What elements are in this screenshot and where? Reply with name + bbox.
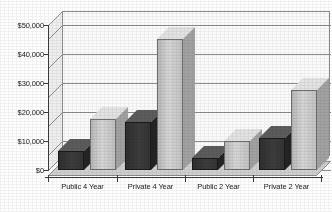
bar-front-face bbox=[259, 138, 285, 170]
bar-private-4-year-series-2 bbox=[157, 39, 183, 170]
x-tick-label-public-2-year: Public 2 Year bbox=[184, 182, 253, 191]
plot-area bbox=[48, 25, 316, 170]
bar-private-2-year-series-2 bbox=[291, 90, 317, 170]
x-tick-label-private-4-year: Private 4 Year bbox=[116, 182, 185, 191]
x-tick-label-public-4-year: Public 4 Year bbox=[48, 182, 117, 191]
y-tick-label-50000: $50,000 bbox=[18, 21, 44, 30]
bar-public-4-year-series-1 bbox=[58, 151, 84, 170]
bar-front-face bbox=[125, 122, 151, 170]
y-tick-label-40000: $40,000 bbox=[18, 50, 44, 59]
x-tick-label-private-2-year: Private 2 Year bbox=[252, 182, 321, 191]
bar-front-face bbox=[192, 158, 218, 170]
bar-side-face bbox=[183, 27, 195, 170]
bar-front-face bbox=[90, 119, 116, 170]
bar-private-4-year-series-1 bbox=[125, 122, 151, 170]
bar-public-2-year-series-1 bbox=[192, 158, 218, 170]
bar-front-face bbox=[157, 39, 183, 170]
bar-chart: $50,000 $40,000 $30,000 $20,000 $10,000 … bbox=[0, 0, 332, 212]
left-wall bbox=[48, 11, 62, 170]
y-tick-label-0: $0 bbox=[36, 166, 44, 175]
bar-public-4-year-series-2 bbox=[90, 119, 116, 170]
bar-private-2-year-series-1 bbox=[259, 138, 285, 170]
y-axis-labels: $50,000 $40,000 $30,000 $20,000 $10,000 … bbox=[0, 0, 44, 212]
bar-front-face bbox=[291, 90, 317, 170]
bar-side-face bbox=[317, 78, 329, 170]
y-tick-label-10000: $10,000 bbox=[18, 137, 44, 146]
bar-front-face bbox=[58, 151, 84, 170]
y-tick-label-20000: $20,000 bbox=[18, 108, 44, 117]
y-tick-label-30000: $30,000 bbox=[18, 79, 44, 88]
bar-front-face bbox=[224, 141, 250, 170]
bar-public-2-year-series-2 bbox=[224, 141, 250, 170]
